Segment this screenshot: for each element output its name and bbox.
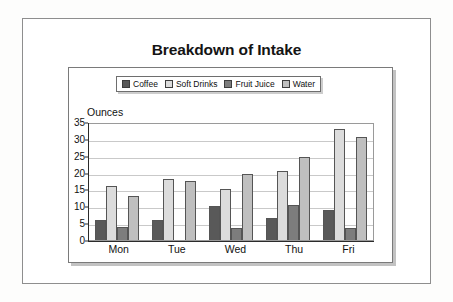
page-background: Breakdown of Intake CoffeeSoft DrinksFru…: [0, 0, 453, 302]
chart-panel: CoffeeSoft DrinksFruit JuiceWater Ounces…: [68, 67, 393, 263]
x-axis-line: [88, 241, 374, 242]
bar-mon-soft-drinks: [106, 186, 117, 240]
bar-group-fri: [323, 124, 367, 240]
x-tick-label-thu: Thu: [285, 243, 303, 255]
plot-wrapper: 05101520253035: [89, 123, 374, 241]
bar-group-wed: [209, 124, 253, 240]
legend-swatch-icon: [224, 80, 232, 88]
bar-fri-soft-drinks: [334, 129, 345, 240]
legend-item-coffee: Coffee: [122, 79, 158, 89]
bar-thu-water: [299, 157, 310, 240]
y-axis-label: Ounces: [87, 106, 123, 118]
outer-frame: Breakdown of Intake CoffeeSoft DrinksFru…: [22, 18, 431, 284]
y-axis-ticks: 05101520253035: [68, 123, 88, 241]
bar-group-tue: [152, 124, 196, 240]
bar-mon-water: [128, 196, 139, 240]
bar-wed-coffee: [209, 206, 220, 240]
legend-swatch-icon: [122, 80, 130, 88]
legend-swatch-icon: [165, 80, 173, 88]
bar-thu-fruit-juice: [288, 205, 299, 240]
plot-area: [89, 123, 374, 241]
legend-item-label: Soft Drinks: [176, 79, 218, 89]
legend-item-fruit-juice: Fruit Juice: [224, 79, 274, 89]
bar-mon-fruit-juice: [117, 227, 128, 240]
y-tick-label: 20: [74, 169, 85, 179]
bar-fri-fruit-juice: [345, 228, 356, 240]
bar-group-mon: [95, 124, 139, 240]
bar-fri-coffee: [323, 210, 334, 240]
chart-legend: CoffeeSoft DrinksFruit JuiceWater: [116, 76, 321, 92]
y-tick-label: 25: [74, 152, 85, 162]
y-tick-label: 35: [74, 118, 85, 128]
bar-tue-soft-drinks: [163, 179, 174, 240]
legend-item-soft-drinks: Soft Drinks: [165, 79, 218, 89]
x-tick-label-wed: Wed: [225, 243, 246, 255]
bar-wed-water: [242, 174, 253, 240]
legend-swatch-icon: [282, 80, 290, 88]
bar-wed-soft-drinks: [220, 189, 231, 240]
bar-groups: [89, 124, 373, 240]
legend-item-label: Fruit Juice: [235, 79, 274, 89]
bar-wed-fruit-juice: [231, 228, 242, 240]
page-title: Breakdown of Intake: [23, 41, 430, 59]
bar-tue-water: [185, 181, 196, 240]
legend-item-water: Water: [282, 79, 315, 89]
y-tick-label: 15: [74, 185, 85, 195]
y-tick-label: 10: [74, 202, 85, 212]
y-tick-label: 30: [74, 135, 85, 145]
bar-fri-water: [356, 137, 367, 240]
x-tick-label-mon: Mon: [109, 243, 129, 255]
bar-mon-coffee: [95, 220, 106, 240]
bar-group-thu: [266, 124, 310, 240]
legend-item-label: Coffee: [133, 79, 158, 89]
x-tick-label-tue: Tue: [168, 243, 186, 255]
bar-thu-coffee: [266, 218, 277, 240]
x-tick-label-fri: Fri: [342, 243, 354, 255]
legend-item-label: Water: [293, 79, 315, 89]
x-axis-labels: MonTueWedThuFri: [89, 243, 374, 255]
bar-thu-soft-drinks: [277, 171, 288, 240]
bar-tue-coffee: [152, 220, 163, 240]
